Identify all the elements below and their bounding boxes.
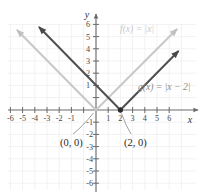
y-tick-label: 4	[86, 45, 90, 54]
vertex-marker-2-0	[118, 107, 123, 112]
y-tick-label: 1	[86, 81, 90, 90]
y-tick-label: -4	[86, 155, 93, 164]
curve-f-label: f(x) = |x|	[120, 23, 154, 35]
curve-f-left-branch	[18, 31, 97, 111]
y-tick-label: 6	[86, 20, 90, 29]
curve-g-label: g(x) = |x − 2|	[138, 81, 190, 93]
absolute-value-graph-figure: -6 -5 -4 -3 -2 -1 1 2 3 4 5 6 6 5 4 3 2 …	[0, 0, 216, 196]
x-axis-label: x	[187, 114, 193, 125]
plot-canvas: -6 -5 -4 -3 -2 -1 1 2 3 4 5 6 6 5 4 3 2 …	[0, 0, 216, 196]
y-tick-label: -5	[86, 167, 93, 176]
point-label-shifted: (2, 0)	[124, 137, 147, 149]
x-tick-label: -3	[44, 114, 51, 123]
point-label-origin: (0, 0)	[60, 137, 83, 149]
y-axis-label: y	[84, 9, 90, 20]
x-tick-label: 4	[143, 114, 147, 123]
x-tick-label: -5	[19, 114, 26, 123]
y-tick-label: 3	[86, 57, 90, 66]
y-tick-label: -3	[86, 143, 93, 152]
x-tick-label: -4	[31, 114, 38, 123]
y-tick-label: -6	[86, 179, 93, 188]
y-tick-label: 5	[86, 33, 90, 42]
x-tick-label: 5	[155, 114, 159, 123]
x-tick-label: -6	[7, 114, 14, 123]
x-tick-label: -2	[56, 114, 63, 123]
x-tick-label: 3	[131, 114, 135, 123]
y-tick-label: -1	[86, 118, 93, 127]
y-tick-label: -2	[86, 130, 93, 139]
x-tick-label: 6	[167, 114, 171, 123]
x-tick-label: -1	[68, 114, 75, 123]
x-tick-label: 1	[106, 114, 110, 123]
